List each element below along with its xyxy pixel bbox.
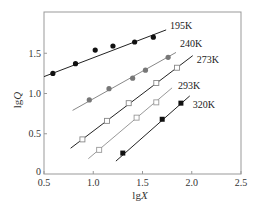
- x-axis-label: lgX: [132, 189, 149, 201]
- series-label: 273K: [197, 54, 220, 65]
- data-point-square-filled: [160, 117, 165, 122]
- y-axis-label: lgQ: [11, 92, 23, 109]
- adsorption-isotherm-chart: 0.51.01.52.02.5 00.51.01.5 195K240K273K2…: [0, 0, 264, 211]
- x-tick-label: 2.0: [186, 177, 199, 188]
- data-point-circle: [110, 43, 115, 48]
- x-tick-label: 1.0: [87, 177, 100, 188]
- data-point-circle: [50, 71, 55, 76]
- data-point-circle: [87, 97, 92, 102]
- y-tick-label: 1.5: [29, 48, 42, 59]
- y-tick-label: 1.0: [29, 88, 42, 99]
- series-label: 320K: [193, 99, 216, 110]
- data-point-circle: [106, 86, 111, 91]
- x-axis-label-var: X: [140, 189, 149, 201]
- plot-frame: [44, 12, 241, 174]
- data-point-square-open: [154, 100, 159, 105]
- series-label: 293K: [178, 80, 201, 91]
- series-label: 240K: [180, 38, 203, 49]
- data-point-square-open: [80, 137, 85, 142]
- data-point-square-open: [154, 81, 159, 86]
- data-point-square-open: [134, 115, 139, 120]
- data-point-circle: [151, 35, 156, 40]
- series-layer: 195K240K273K293K320K: [44, 20, 220, 161]
- series-240k: 240K: [73, 38, 203, 110]
- data-point-square-open: [126, 101, 131, 106]
- x-tick-label: 0.5: [38, 177, 51, 188]
- data-point-square-filled: [178, 101, 183, 106]
- data-point-square-open: [105, 118, 110, 123]
- series-195k: 195K: [44, 20, 193, 76]
- plot-border: [44, 12, 241, 174]
- data-point-circle: [166, 55, 171, 60]
- data-point-circle: [143, 68, 148, 73]
- y-axis-label-var: Q: [11, 92, 23, 100]
- x-tick-label: 2.5: [235, 177, 248, 188]
- data-point-square-filled: [120, 151, 125, 156]
- data-point-circle: [130, 76, 135, 81]
- series-label: 195K: [170, 20, 193, 31]
- data-point-square-open: [174, 65, 179, 70]
- data-point-circle: [93, 47, 98, 52]
- data-point-circle: [132, 39, 137, 44]
- x-tick-label: 1.5: [136, 177, 149, 188]
- y-tick-label: 0.5: [29, 128, 42, 139]
- data-point-circle: [73, 61, 78, 66]
- y-tick-label: 0: [36, 166, 41, 177]
- data-point-square-open: [97, 147, 102, 152]
